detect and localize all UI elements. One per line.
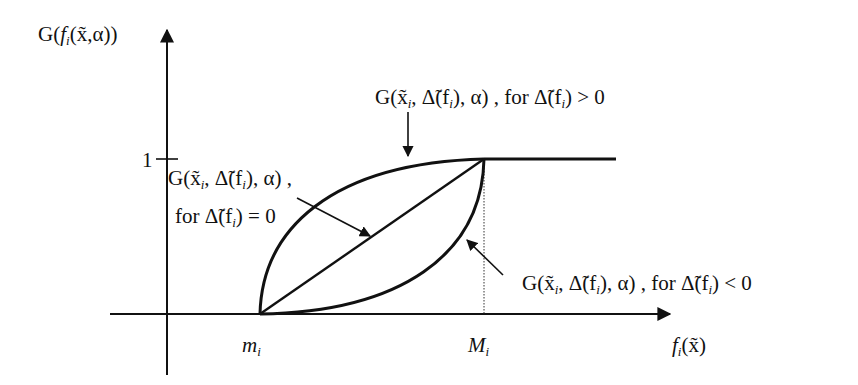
x-tick-min-label: mi (242, 335, 261, 358)
x-axis-label: fi(x̃) (672, 335, 706, 358)
curve-linear-label-line2: for Δ̃(fi) = 0 (175, 206, 276, 229)
x-tick-max-label: Mi (468, 335, 489, 358)
curve-linear (260, 159, 484, 314)
membership-function-diagram (0, 0, 858, 385)
y-axis-label: G(fi(x̃,α)) (38, 24, 117, 47)
arrow-lower (467, 240, 503, 275)
arrow-linear (297, 198, 370, 236)
curve-lower-label: G(x̃i, Δ̃(fi), α) , for Δ̃(fi) < 0 (522, 273, 752, 296)
curve-upper-label: G(x̃i, Δ̃(fi), α) , for Δ̃(fi) > 0 (375, 87, 605, 110)
y-tick-one-label: 1 (142, 150, 153, 171)
curve-linear-label-line1: G(x̃i, Δ̃(fi), α) , (168, 168, 292, 191)
